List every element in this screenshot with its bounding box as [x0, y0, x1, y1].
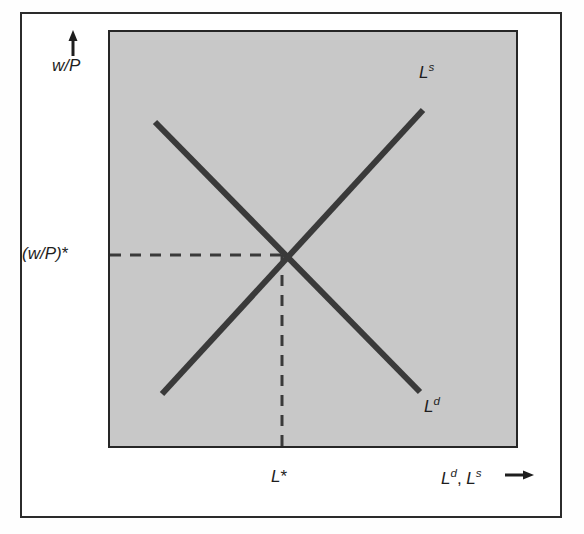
labor-demand-curve-label: Ld — [424, 396, 440, 415]
y-axis-arrow-icon — [69, 30, 78, 56]
equilibrium-wage-label: (w/P)* — [22, 245, 68, 262]
x-axis-label-supply-superscript: s — [476, 467, 482, 479]
x-axis-label-supply: L — [466, 469, 475, 488]
equilibrium-labor-star: * — [280, 467, 287, 486]
labor-supply-curve-label: Ls — [419, 62, 434, 81]
x-axis-arrow-icon — [505, 471, 534, 480]
plot-graphics — [0, 0, 584, 534]
labor-demand-label-superscript: d — [433, 395, 439, 407]
equilibrium-wage-base: (w/P) — [22, 244, 62, 263]
equilibrium-labor-label: L* — [271, 468, 287, 485]
labor-market-diagram: w/P (w/P)* L* Ld, Ls Ls Ld — [0, 0, 584, 534]
x-axis-label: Ld, Ls — [441, 468, 482, 487]
equilibrium-wage-star: * — [62, 244, 69, 263]
y-axis-label: w/P — [52, 57, 80, 74]
x-axis-label-separator: , — [457, 469, 462, 488]
labor-supply-label-superscript: s — [428, 61, 434, 73]
